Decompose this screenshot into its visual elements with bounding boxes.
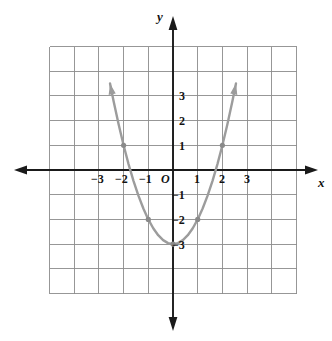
- y-tick-label-minus-2: −2: [172, 214, 185, 226]
- y-axis-arrow-up: [169, 16, 178, 30]
- y-axis-label: y: [157, 10, 163, 23]
- x-tick-label-3: 3: [244, 173, 250, 185]
- x-tick-label-minus-2: −2: [115, 173, 128, 185]
- x-axis-arrow-right: [305, 166, 318, 175]
- x-tick-label-2: 2: [219, 173, 225, 185]
- y-tick-label-1: 1: [179, 140, 185, 152]
- x-axis-arrow-left: [14, 166, 27, 175]
- y-tick-label-minus-1: −1: [172, 189, 185, 201]
- graph-figure: y x O −3 −2 −1 1 2 3 3 2 1 −1 −2 −3: [0, 0, 332, 341]
- y-tick-label-minus-3: −3: [172, 239, 185, 251]
- x-tick-label-minus-1: −1: [139, 173, 152, 185]
- y-tick-label-2: 2: [179, 115, 185, 127]
- marked-point: [146, 217, 151, 222]
- marked-point: [121, 143, 126, 148]
- marked-point: [195, 217, 200, 222]
- coordinate-plane-svg: [0, 0, 332, 341]
- x-tick-label-1: 1: [194, 173, 200, 185]
- y-axis-arrow-down: [169, 317, 178, 331]
- x-axis-label: x: [318, 176, 325, 189]
- y-tick-label-3: 3: [179, 90, 185, 102]
- marked-point: [220, 143, 225, 148]
- x-tick-label-minus-3: −3: [91, 173, 104, 185]
- origin-label: O: [161, 173, 170, 185]
